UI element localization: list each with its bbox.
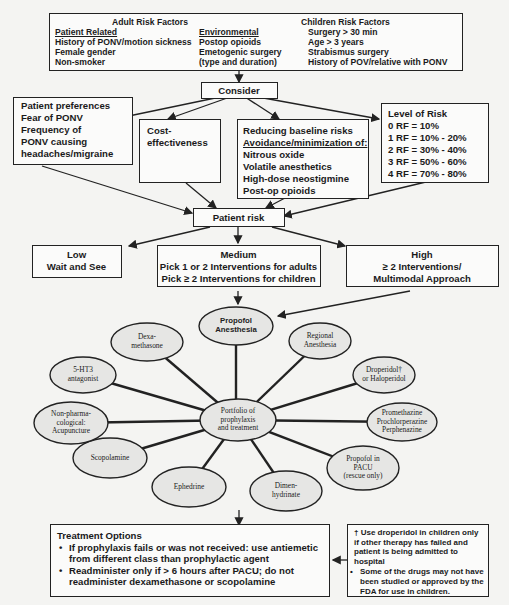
consider-label: Consider bbox=[202, 85, 276, 96]
footnote-line: been studied or approved by the bbox=[360, 577, 484, 586]
preference-line: PONV causing bbox=[21, 136, 87, 147]
patient-related-heading: Patient Related bbox=[55, 27, 117, 37]
portfolio-center-label: Portfolio ofprophylaxisand treatment bbox=[218, 407, 258, 433]
patient-preferences-box: Patient preferences Fear of PONV Frequen… bbox=[13, 97, 133, 165]
reducing-item: Post-op opioids bbox=[243, 185, 315, 196]
dimenhydrinate-label: Dimen-hydrinate bbox=[272, 482, 300, 499]
patient-risk-label: Patient risk bbox=[194, 212, 283, 223]
non-pharmacological-label: Non-pharma-cological:Acupuncture bbox=[51, 410, 91, 436]
high-line: Multimodal Approach bbox=[347, 273, 497, 284]
dexamethasone-label: Dexa-methasone bbox=[131, 333, 163, 350]
footnote-line: patient is being admitted to bbox=[354, 547, 458, 556]
propofol-anesthesia-label: PropofolAnesthesia bbox=[215, 317, 257, 334]
footnote-line: hospital bbox=[354, 557, 385, 566]
risk-factors-box: Adult Risk Factors Patient Related Histo… bbox=[49, 13, 463, 71]
treatment-options-title: Treatment Options bbox=[57, 530, 142, 541]
regional-anesthesia-label: RegionalAnesthesia bbox=[304, 332, 336, 349]
reducing-item: Nitrous oxide bbox=[243, 149, 304, 160]
high-title: High bbox=[347, 249, 497, 260]
medium-line: Pick 1 or 2 Interventions for adults bbox=[158, 261, 319, 272]
patient-related-item: Non-smoker bbox=[55, 57, 105, 67]
bullet-line: Readminister only if > 6 hours after PAC… bbox=[69, 565, 294, 576]
patient-related-item: History of PONV/motion sickness bbox=[55, 37, 192, 47]
risk-low-box: Low Wait and See bbox=[32, 245, 122, 278]
bullet-line: from different class than prophylactic a… bbox=[69, 553, 269, 564]
low-line: Wait and See bbox=[33, 261, 120, 272]
medium-line: Pick ≥ 2 Interventions for children bbox=[158, 273, 319, 284]
low-title: Low bbox=[33, 249, 120, 260]
footnote-line: † Use droperidol in children only bbox=[354, 528, 478, 537]
children-item: Surgery > 30 min bbox=[308, 27, 378, 37]
patient-preferences-title: Patient preferences bbox=[21, 100, 110, 111]
risk-level-item: 3 RF = 50% - 60% bbox=[388, 156, 467, 167]
level-of-risk-title: Level of Risk bbox=[388, 108, 447, 119]
footnote-line: FDA for use in children. bbox=[360, 587, 450, 596]
footnote-box: † Use droperidol in children only if oth… bbox=[347, 524, 489, 597]
treatment-options-box: Treatment Options If prophylaxis fails o… bbox=[50, 524, 330, 597]
adult-risk-factors-title: Adult Risk Factors bbox=[50, 17, 250, 27]
environmental-item: Postop opioids bbox=[199, 37, 261, 47]
children-item: Age > 3 years bbox=[308, 37, 364, 47]
medium-title: Medium bbox=[158, 249, 319, 260]
risk-level-item: 1 RF = 10% - 20% bbox=[388, 132, 467, 143]
reducing-title: Reducing baseline risks bbox=[243, 125, 353, 136]
patient-risk-box: Patient risk bbox=[193, 208, 285, 227]
bullet-line: readminister dexamethasone or scopolamin… bbox=[69, 576, 275, 587]
scopolamine-label: Scopolamine bbox=[91, 454, 130, 463]
children-item: History of POV/relative with PONV bbox=[308, 57, 447, 67]
environmental-item: (type and duration) bbox=[199, 57, 277, 67]
children-risk-factors-title: Children Risk Factors bbox=[301, 17, 390, 27]
reducing-subtitle: Avoidance/minimization of: bbox=[243, 137, 367, 148]
reducing-item: High-dose neostigmine bbox=[243, 173, 349, 184]
footnote-line: if other therapy has failed and bbox=[354, 538, 468, 547]
cost-line: Cost- bbox=[147, 125, 172, 136]
cost-effectiveness-box: Cost- effectiveness bbox=[139, 119, 221, 183]
environmental-heading: Environmental bbox=[199, 27, 259, 37]
promethazine-label: PromethazineProchlorperazinePerphenazine bbox=[377, 409, 427, 435]
footnote-line: Some of the drugs may not have bbox=[360, 567, 484, 576]
preference-line: Frequency of bbox=[21, 124, 81, 135]
level-of-risk-box: Level of Risk 0 RF = 10% 1 RF = 10% - 20… bbox=[381, 103, 489, 183]
environmental-item: Emetogenic surgery bbox=[199, 47, 282, 57]
bullet-line: If prophylaxis fails or was not received… bbox=[69, 542, 318, 553]
preference-line: headaches/migraine bbox=[21, 148, 113, 159]
reducing-baseline-risks-box: Reducing baseline risks Avoidance/minimi… bbox=[237, 119, 369, 199]
reducing-item: Volatile anesthetics bbox=[243, 161, 332, 172]
patient-related-item: Female gender bbox=[55, 47, 116, 57]
droperidol-label: Droperidol†or Haloperidol bbox=[362, 366, 405, 383]
risk-level-item: 4 RF = 70% - 80% bbox=[388, 168, 467, 179]
risk-medium-box: Medium Pick 1 or 2 Interventions for adu… bbox=[157, 245, 321, 287]
5ht3-antagonist-label: 5-HT3antagonist bbox=[68, 366, 98, 383]
cost-line: effectiveness bbox=[147, 137, 208, 148]
risk-high-box: High ≥ 2 Interventions/ Multimodal Appro… bbox=[346, 245, 499, 287]
consider-box: Consider bbox=[201, 82, 278, 99]
propofol-pacu-label: Propofol inPACU(rescue only) bbox=[344, 455, 383, 481]
children-item: Strabismus surgery bbox=[308, 47, 389, 57]
risk-level-item: 0 RF = 10% bbox=[388, 120, 439, 131]
risk-level-item: 2 RF = 30% - 40% bbox=[388, 144, 467, 155]
treatment-bullet: If prophylaxis fails or was not received… bbox=[57, 542, 318, 588]
footnote-text: † Use droperidol in children only if oth… bbox=[354, 528, 484, 596]
ephedrine-label: Ephedrine bbox=[174, 483, 204, 492]
preference-line: Fear of PONV bbox=[21, 112, 83, 123]
high-line: ≥ 2 Interventions/ bbox=[347, 261, 497, 272]
